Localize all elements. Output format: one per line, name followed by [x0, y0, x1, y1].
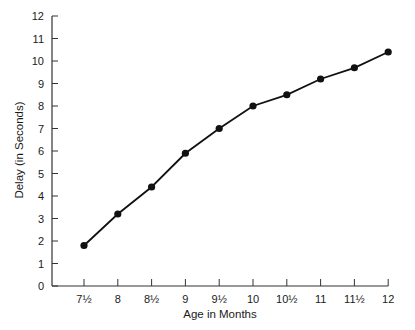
x-tick-label: 8½: [144, 293, 159, 305]
x-tick-label: 8: [115, 293, 121, 305]
y-tick-label: 5: [38, 168, 44, 180]
y-tick-label: 1: [38, 258, 44, 270]
y-tick-label: 0: [38, 280, 44, 292]
data-point: [385, 48, 392, 55]
y-tick-label: 3: [38, 213, 44, 225]
y-axis-title: Delay (in Seconds): [13, 101, 25, 198]
data-point: [80, 242, 87, 249]
y-tick-label: 11: [33, 33, 44, 45]
y-tick-label: 4: [38, 190, 44, 202]
y-tick-label: 6: [38, 145, 44, 157]
data-point: [351, 64, 358, 71]
y-tick-label: 12: [32, 10, 44, 22]
y-tick-label: 9: [38, 78, 44, 90]
y-axis: 0123456789101112: [32, 10, 58, 292]
data-point: [114, 210, 121, 217]
x-tick-label: 10: [247, 293, 259, 305]
y-tick-label: 8: [38, 100, 44, 112]
x-axis-title: Age in Months: [183, 308, 257, 320]
x-axis: 7½88½99½1010½1111½12: [52, 279, 394, 305]
y-tick-label: 7: [38, 123, 44, 135]
x-tick-label: 11½: [344, 293, 365, 305]
data-point: [283, 91, 290, 98]
data-line: [84, 52, 388, 246]
x-tick-label: 9½: [212, 293, 227, 305]
data-point: [148, 183, 155, 190]
line-chart: 0123456789101112 7½88½99½1010½1111½12 Ag…: [0, 0, 415, 330]
x-tick-label: 7½: [76, 293, 91, 305]
y-tick-label: 10: [32, 55, 44, 67]
data-point: [249, 102, 256, 109]
x-tick-label: 9: [182, 293, 188, 305]
data-points: [80, 48, 391, 249]
x-tick-label: 11: [315, 293, 326, 305]
x-tick-label: 12: [382, 293, 394, 305]
data-point: [216, 125, 223, 132]
x-tick-label: 10½: [276, 293, 297, 305]
data-point: [317, 75, 324, 82]
data-point: [182, 150, 189, 157]
y-tick-label: 2: [38, 235, 44, 247]
